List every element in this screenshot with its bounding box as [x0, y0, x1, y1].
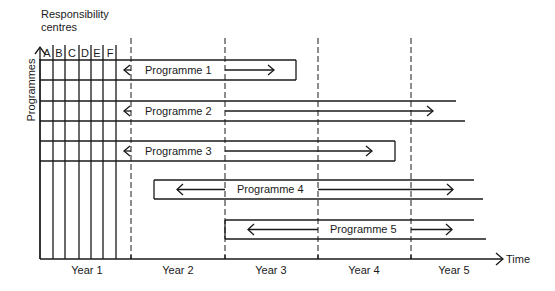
column-label-d: D: [81, 47, 89, 59]
column-label-e: E: [93, 47, 100, 59]
responsibility-centres-title-line1: Responsibility: [41, 8, 109, 20]
responsibility-centres-title-line2: centres: [41, 21, 77, 33]
programme-1-label: Programme 1: [141, 64, 216, 76]
year-5-label: Year 5: [438, 264, 469, 276]
programme-4-label: Programme 4: [233, 183, 308, 195]
column-label-c: C: [68, 47, 76, 59]
programme-3-label: Programme 3: [141, 145, 216, 157]
programme-5-label: Programme 5: [326, 223, 401, 235]
programme-3-bar: [40, 141, 395, 161]
column-label-b: B: [55, 47, 62, 59]
column-label-a: A: [43, 47, 50, 59]
year-4-label: Year 4: [348, 264, 379, 276]
diagram-canvas: [0, 0, 555, 291]
year-1-label: Year 1: [71, 264, 102, 276]
responsibility-column-lines: [40, 59, 116, 259]
year-3-label: Year 3: [255, 264, 286, 276]
time-axis-label: Time: [506, 253, 530, 265]
programmes-axis-label: Programmes: [25, 59, 37, 122]
programme-2-label: Programme 2: [141, 105, 216, 117]
column-label-f: F: [107, 47, 114, 59]
year-2-label: Year 2: [162, 264, 193, 276]
programme-2-bar: [40, 101, 465, 121]
